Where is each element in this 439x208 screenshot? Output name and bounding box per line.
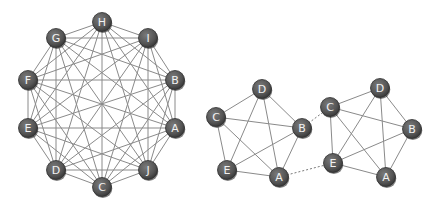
complete-node-j: J (139, 161, 159, 182)
complete-node-b: B (166, 71, 186, 92)
edges-layer (28, 22, 412, 187)
node-label: C (212, 111, 220, 124)
pentagon-right-node-b: B (403, 120, 423, 141)
pentagon-left-node-b: B (293, 119, 313, 140)
pentagon-right-node-c: C (321, 98, 341, 119)
node-label: F (25, 74, 31, 87)
pentagon-left-node-c: C (207, 108, 227, 129)
pentagon-right-edge-B-E (333, 129, 412, 163)
complete-node-g: G (47, 29, 67, 50)
node-label: D (52, 164, 60, 177)
pentagon-right-node-d: D (371, 79, 391, 100)
pentagon-right-node-e: E (324, 154, 344, 175)
node-label: A (275, 171, 283, 184)
complete-node-i: I (139, 29, 159, 50)
node-label: D (258, 83, 266, 96)
node-label: J (145, 164, 149, 177)
node-label: E (330, 157, 337, 170)
complete-node-a: A (166, 119, 186, 140)
node-label: C (326, 101, 334, 114)
pentagon-right-node-a: A (377, 168, 397, 189)
complete-edge-B-G (56, 38, 175, 80)
complete-node-e: E (19, 119, 39, 140)
complete-edge-I-F (28, 38, 148, 80)
node-label: A (382, 171, 390, 184)
pentagon-left-edge-D-E (227, 89, 262, 170)
pentagon-right-edge-D-E (333, 88, 380, 163)
complete-node-h: H (93, 13, 113, 34)
node-label: A (171, 122, 179, 135)
node-label: E (25, 122, 32, 135)
node-label: I (146, 32, 149, 45)
pentagon-left-node-a: A (270, 168, 290, 189)
pentagon-left-node-e: E (218, 161, 238, 182)
node-label: G (52, 32, 61, 45)
complete-node-f: F (19, 71, 39, 92)
complete-edge-J-E (28, 128, 148, 170)
node-label: B (171, 74, 179, 87)
node-label: E (224, 164, 231, 177)
complete-node-d: D (47, 161, 67, 182)
pentagon-right-edge-D-A (380, 88, 386, 177)
node-label: H (98, 16, 106, 29)
complete-node-c: C (93, 178, 113, 199)
complete-edge-A-D (56, 128, 175, 170)
node-label: C (98, 181, 106, 194)
pentagon-left-node-d: D (253, 80, 273, 101)
node-label: D (376, 82, 384, 95)
node-label: B (298, 122, 306, 135)
pentagon-right-edge-C-B (330, 107, 412, 129)
pentagon-left-edge-C-B (216, 117, 302, 128)
node-label: B (408, 123, 416, 136)
graph-diagram: HIBAJCDEFGDCBEADCBEA (0, 0, 439, 208)
